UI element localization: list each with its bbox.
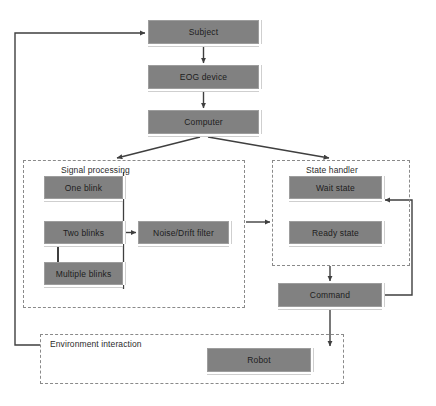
group-label-signal-processing: Signal processing (61, 165, 130, 175)
node-label-ready-state: Ready state (312, 228, 359, 238)
node-label-computer: Computer (184, 117, 223, 127)
node-robot[interactable]: Robot (207, 348, 311, 372)
node-label-one-blink: One blink (65, 183, 102, 193)
node-noise-drift-filter[interactable]: Noise/Drift filter (138, 221, 229, 244)
node-wait-state[interactable]: Wait state (289, 176, 382, 199)
node-label-noise-drift-filter: Noise/Drift filter (153, 228, 214, 238)
node-label-command: Command (310, 290, 350, 300)
node-label-subject: Subject (189, 27, 218, 37)
node-computer[interactable]: Computer (148, 110, 259, 134)
node-label-multiple-blinks: Multiple blinks (56, 269, 112, 279)
node-command[interactable]: Command (278, 283, 382, 307)
edge-computer-to-signal-processing (117, 137, 200, 158)
node-label-two-blinks: Two blinks (63, 228, 104, 238)
node-ready-state[interactable]: Ready state (289, 221, 382, 244)
edge-computer-to-state-handler (208, 137, 329, 158)
node-one-blink[interactable]: One blink (44, 176, 123, 199)
flowchart-canvas: Signal processing State handler Environm… (0, 0, 436, 406)
node-label-wait-state: Wait state (316, 183, 355, 193)
node-multiple-blinks[interactable]: Multiple blinks (44, 262, 123, 285)
node-two-blinks[interactable]: Two blinks (44, 221, 123, 244)
node-subject[interactable]: Subject (148, 20, 259, 44)
node-label-robot: Robot (247, 355, 270, 365)
group-label-environment-interaction: Environment interaction (50, 339, 142, 349)
node-label-eog-device: EOG device (180, 72, 227, 82)
group-label-state-handler: State handler (306, 165, 358, 175)
node-eog-device[interactable]: EOG device (148, 65, 259, 89)
